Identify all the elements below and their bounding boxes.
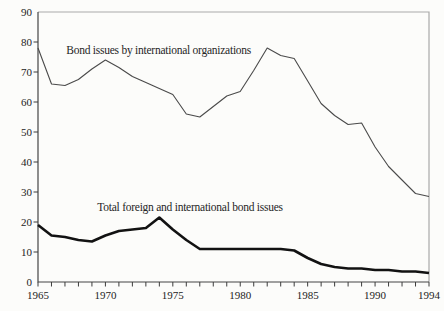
x-tick-label: 1990 <box>364 289 387 301</box>
series <box>38 48 429 273</box>
y-tick-label: 50 <box>21 126 33 138</box>
y-tick-label: 60 <box>21 96 33 108</box>
series-line-total <box>38 218 429 274</box>
chart-canvas: 0102030405060708090196519701975198019851… <box>0 0 444 311</box>
y-tick-label: 10 <box>21 246 33 258</box>
y-tick-label: 0 <box>27 276 33 288</box>
y-tick-label: 90 <box>21 6 33 18</box>
y-tick-label: 20 <box>21 216 33 228</box>
bond-issues-figure: 0102030405060708090196519701975198019851… <box>0 0 444 311</box>
y-tick-label: 70 <box>21 66 33 78</box>
x-tick-label: 1975 <box>162 289 185 301</box>
y-tick-label: 80 <box>21 36 33 48</box>
series-line-intl-orgs <box>38 48 429 197</box>
x-tick-label: 1980 <box>229 289 252 301</box>
x-tick-label: 1970 <box>94 289 117 301</box>
x-tick-label: 1965 <box>27 289 50 301</box>
y-tick-label: 30 <box>21 186 33 198</box>
y-tick-label: 40 <box>21 156 33 168</box>
x-tick-label: 1985 <box>297 289 320 301</box>
series-label-total-annotation: Total foreign and international bond iss… <box>97 201 283 214</box>
series-label-intl-orgs-annotation: Bond issues by international organizatio… <box>66 44 252 57</box>
x-tick-label: 1994 <box>418 289 441 301</box>
